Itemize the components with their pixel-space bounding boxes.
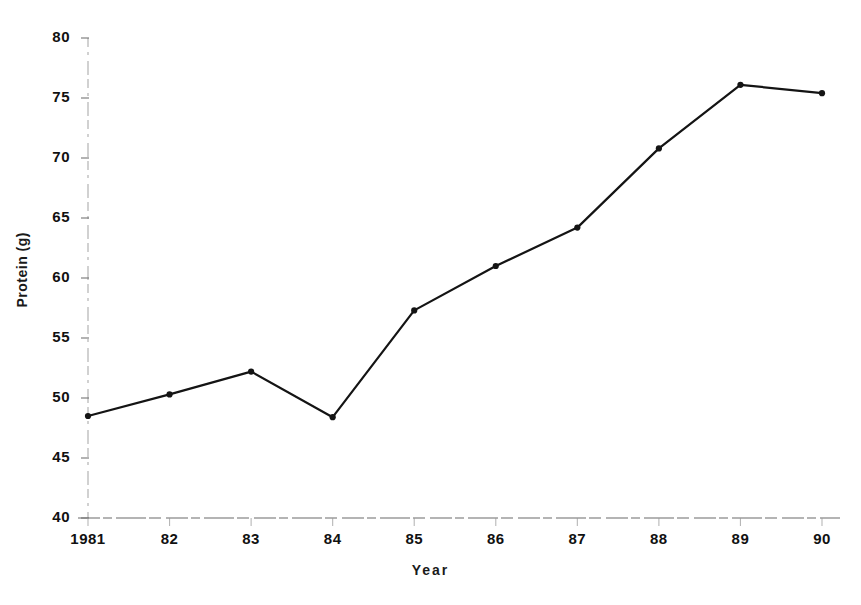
data-series-protein — [88, 85, 822, 417]
data-point-marker — [330, 414, 336, 420]
axis-ticks — [81, 38, 822, 526]
data-point-markers — [85, 82, 825, 421]
data-point-marker — [85, 413, 91, 419]
data-point-marker — [166, 391, 172, 397]
series-line — [88, 85, 822, 417]
data-point-marker — [248, 369, 254, 375]
data-point-marker — [493, 263, 499, 269]
data-point-marker — [656, 145, 662, 151]
data-point-marker — [819, 90, 825, 96]
plot-area — [0, 0, 861, 605]
chart-figure: Protein (g) Year 404550556065707580 1981… — [0, 0, 861, 605]
data-point-marker — [574, 225, 580, 231]
data-point-marker — [737, 82, 743, 88]
axes — [78, 38, 840, 518]
data-point-marker — [411, 307, 417, 313]
